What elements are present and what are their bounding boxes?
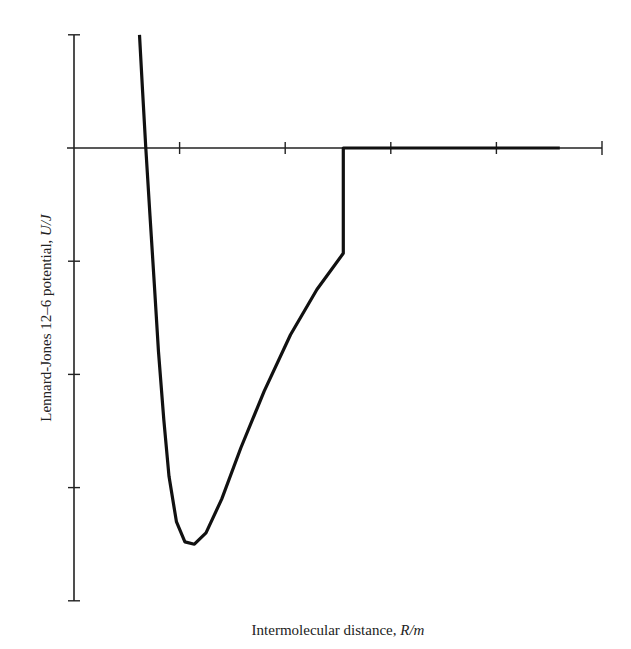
- x-axis-label: Intermolecular distance, R/m: [252, 622, 425, 639]
- y-axis-label: Lennard-Jones 12–6 potential, U/J: [38, 214, 55, 421]
- potential-curve: [140, 35, 560, 544]
- y-axis: [68, 35, 80, 601]
- chart-plot-area: [0, 0, 631, 649]
